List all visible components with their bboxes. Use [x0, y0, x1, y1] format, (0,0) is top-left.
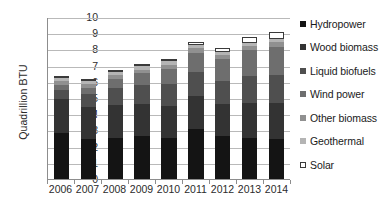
bar-segment: [134, 104, 149, 136]
bar-slot: [209, 18, 236, 179]
legend-swatch-icon: [300, 162, 306, 168]
bar-segment: [134, 85, 149, 104]
legend-label: Solar: [310, 159, 334, 171]
legend-swatch-icon: [300, 115, 306, 121]
legend-swatch-icon: [300, 91, 306, 97]
bar-segment: [269, 75, 284, 103]
bar-slot: [48, 18, 75, 179]
legend-item[interactable]: Other biomass: [300, 106, 392, 130]
bar-slot: [236, 18, 263, 179]
legend-item[interactable]: Geothermal: [300, 130, 392, 154]
bar-segment: [215, 104, 230, 136]
x-tick-mark: [101, 180, 102, 184]
x-tick-label: 2006: [47, 183, 74, 195]
stacked-bar[interactable]: [215, 48, 230, 179]
bar-slot: [156, 18, 183, 179]
x-tick-label: 2010: [155, 183, 182, 195]
legend-item[interactable]: Hydropower: [300, 12, 392, 36]
bar-segment: [108, 138, 123, 179]
bar-segment: [269, 32, 284, 39]
bar-slot: [263, 18, 290, 179]
bar-segment: [188, 72, 203, 96]
x-tick-label: 2007: [74, 183, 101, 195]
bar-segment: [242, 50, 257, 76]
stacked-bar[interactable]: [161, 59, 176, 179]
bar-segment: [108, 88, 123, 105]
stacked-bar[interactable]: [242, 37, 257, 179]
legend-item[interactable]: Liquid biofuels: [300, 59, 392, 83]
legend-swatch-icon: [300, 44, 306, 50]
bar-segment: [242, 103, 257, 138]
stacked-bar[interactable]: [134, 64, 149, 179]
legend-label: Wood biomass: [310, 41, 378, 53]
bar-slot: [102, 18, 129, 179]
bar-segment: [134, 73, 149, 85]
bar-segment: [108, 105, 123, 138]
bar-segment: [242, 138, 257, 179]
stacked-bar[interactable]: [269, 32, 284, 179]
legend-label: Geothermal: [310, 135, 364, 147]
bar-segment: [161, 69, 176, 84]
stacked-bar[interactable]: [108, 70, 123, 179]
bar-segment: [54, 90, 69, 100]
bar-segment: [81, 94, 96, 107]
bar-segment: [54, 133, 69, 179]
x-tick-mark: [155, 180, 156, 184]
bar-group: [48, 18, 290, 179]
legend-item[interactable]: Wind power: [300, 83, 392, 107]
x-tick-label: 2011: [182, 183, 209, 195]
x-tick-mark: [236, 180, 237, 184]
bar-segment: [269, 47, 284, 75]
legend-label: Wind power: [310, 88, 364, 100]
x-tick-mark: [290, 180, 291, 184]
bar-slot: [182, 18, 209, 179]
legend-swatch-icon: [300, 21, 306, 27]
legend-item[interactable]: Solar: [300, 153, 392, 177]
bar-segment: [161, 138, 176, 179]
x-tick-label: 2009: [128, 183, 155, 195]
bar-segment: [188, 129, 203, 179]
stacked-bar[interactable]: [188, 42, 203, 179]
bar-slot: [129, 18, 156, 179]
legend-label: Liquid biofuels: [310, 65, 376, 77]
x-tick-label: 2012: [209, 183, 236, 195]
bar-segment: [188, 53, 203, 72]
bar-segment: [215, 81, 230, 104]
x-tick-label: 2013: [236, 183, 263, 195]
bar-segment: [269, 139, 284, 179]
bar-segment: [134, 136, 149, 179]
x-tick-mark: [209, 180, 210, 184]
bar-segment: [161, 84, 176, 106]
bar-segment: [161, 106, 176, 138]
bar-segment: [81, 107, 96, 140]
legend-swatch-icon: [300, 138, 306, 144]
x-tick-mark: [47, 180, 48, 184]
stacked-bar[interactable]: [54, 76, 69, 179]
bar-slot: [75, 18, 102, 179]
x-tick-label: 2014: [263, 183, 290, 195]
legend: HydropowerWood biomassLiquid biofuelsWin…: [300, 12, 392, 177]
x-tick-mark: [74, 180, 75, 184]
legend-item[interactable]: Wood biomass: [300, 36, 392, 60]
legend-label: Other biomass: [310, 112, 377, 124]
x-tick-mark: [263, 180, 264, 184]
bar-segment: [215, 136, 230, 179]
legend-label: Hydropower: [310, 18, 366, 30]
x-axis-tick-labels: 200620072008200920102011201220132014: [47, 183, 290, 195]
x-tick-mark: [182, 180, 183, 184]
bar-segment: [269, 103, 284, 139]
bar-segment: [54, 99, 69, 132]
bar-segment: [215, 59, 230, 81]
bar-segment: [242, 76, 257, 103]
x-tick-label: 2008: [101, 183, 128, 195]
stacked-bar[interactable]: [81, 79, 96, 179]
bar-segment: [108, 79, 123, 88]
bar-segment: [81, 139, 96, 179]
legend-swatch-icon: [300, 68, 306, 74]
stacked-bar-chart: Quadrillion BTU 109876543210 20062007200…: [0, 0, 392, 211]
bar-segment: [188, 96, 203, 129]
x-tick-mark: [128, 180, 129, 184]
plot-area: [47, 18, 290, 180]
